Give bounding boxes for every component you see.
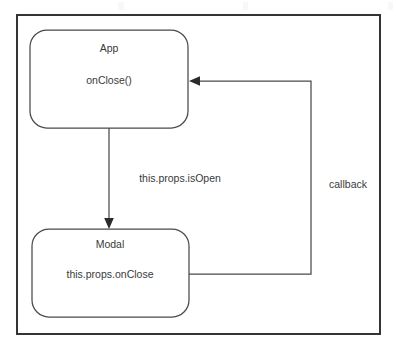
node-modal[interactable]: Modal this.props.onClose: [32, 229, 189, 317]
node-app-title: App: [100, 42, 119, 54]
node-modal-prop: this.props.onClose: [67, 268, 154, 280]
flowchart-svg: App onClose() Modal this.props.onClose t…: [0, 0, 396, 354]
node-app[interactable]: App onClose(): [30, 30, 188, 128]
edge-label-isopen: this.props.isOpen: [139, 172, 221, 184]
diagram-canvas: App onClose() Modal this.props.onClose t…: [0, 0, 396, 354]
edge-label-callback: callback: [329, 178, 368, 190]
node-modal-title: Modal: [96, 238, 125, 250]
node-app-method: onClose(): [86, 74, 132, 86]
